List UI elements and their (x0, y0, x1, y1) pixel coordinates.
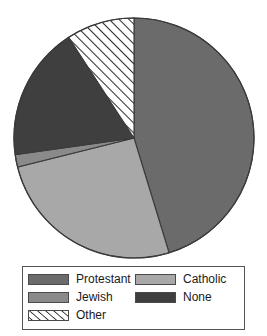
legend-item-other[interactable]: Other (28, 306, 135, 324)
legend-item-none[interactable]: None (135, 288, 242, 306)
legend-label-protestant: Protestant (76, 273, 131, 285)
legend-label-jewish: Jewish (76, 291, 113, 303)
chart-legend: Protestant Catholic Jewish None (22, 266, 245, 330)
legend-item-catholic[interactable]: Catholic (135, 270, 242, 288)
none-swatch (135, 292, 176, 303)
other-hatch-icon (29, 311, 68, 320)
legend-label-none: None (183, 291, 212, 303)
protestant-swatch (28, 274, 69, 285)
legend-label-other: Other (76, 309, 106, 321)
legend-label-catholic: Catholic (183, 273, 226, 285)
pie-chart-figure: Protestant Catholic Jewish None (0, 0, 267, 336)
legend-item-protestant[interactable]: Protestant (28, 270, 135, 288)
catholic-swatch (135, 274, 176, 285)
other-swatch (28, 310, 69, 321)
legend-item-jewish[interactable]: Jewish (28, 288, 135, 306)
jewish-swatch (28, 292, 69, 303)
pie-slices-group (14, 18, 254, 258)
pie-chart-svg (0, 0, 267, 265)
legend-grid: Protestant Catholic Jewish None (28, 270, 239, 324)
pie-plot-area (0, 0, 267, 265)
